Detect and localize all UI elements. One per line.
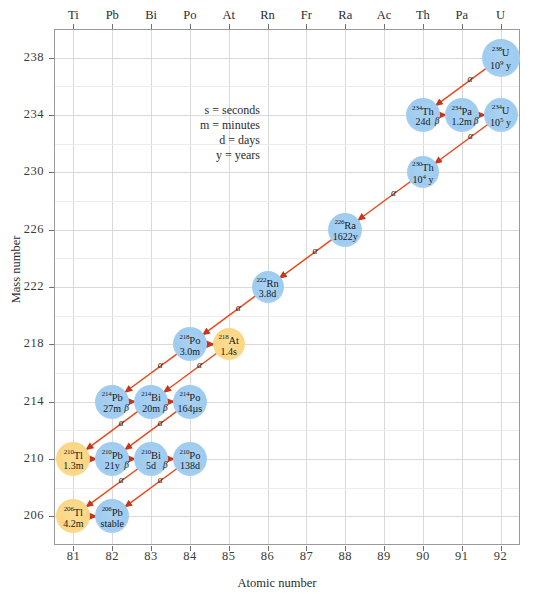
units-legend: s = seconds m = minutes d = days y = yea… [150,103,260,163]
nuclide-half-life: 5d [146,460,156,471]
element-symbol-Fr: Fr [286,8,326,23]
element-symbol-Th: Th [403,8,443,23]
gridline-horizontal-minor [55,430,519,431]
nuclide-node-At218[interactable]: 218At1.4s [213,328,245,360]
decay-label-beta: β [474,116,479,126]
nuclide-symbol: 210Bi [141,447,161,461]
nuclide-symbol: 214Po [179,389,200,403]
nuclide-node-U238[interactable]: 238U109 y [482,39,520,77]
nuclide-node-Pb210[interactable]: 210Pb21y [95,442,129,476]
nuclide-half-life: 104 y [412,172,433,185]
nuclide-symbol: 214Pb [102,389,123,403]
nuclide-half-life: 27m [103,403,121,414]
nuclide-node-Ra226[interactable]: 226Ra1622y [328,213,362,247]
y-axis-title: Mass number [9,170,24,370]
x-tick-mark [423,546,424,551]
top-tick-mark [190,24,191,29]
y-tick-mark [49,115,54,116]
nuclide-node-Th234[interactable]: 234Th24d [406,98,440,132]
nuclide-node-Rn222[interactable]: 222Rn3.8d [252,271,284,303]
decay-label-alpha: α [119,475,124,485]
legend-line-years: y = years [150,148,260,163]
gridline-horizontal [55,172,519,173]
nuclide-node-Th230[interactable]: 230Th104 y [407,156,439,188]
y-tick-label-234: 234 [0,107,44,122]
nuclide-half-life: stable [101,518,124,529]
x-tick-label-92: 92 [481,549,521,564]
x-tick-mark [112,546,113,551]
nuclide-half-life: 4.2m [63,518,83,529]
nuclide-half-life: 1.3m [63,460,83,471]
nuclide-symbol: 210Po [179,447,200,461]
nuclide-node-Pb214[interactable]: 214Pb27m [95,385,129,419]
top-tick-mark [423,24,424,29]
x-tick-label-87: 87 [286,549,326,564]
x-tick-label-84: 84 [170,549,210,564]
gridline-horizontal-minor [55,316,519,317]
nuclide-node-Po218[interactable]: 218Po3.0m [173,327,207,361]
nuclide-node-Bi214[interactable]: 214Bi20m [134,385,168,419]
x-tick-label-89: 89 [364,549,404,564]
x-tick-label-85: 85 [209,549,249,564]
gridline-horizontal [55,287,519,288]
nuclide-half-life: 1622y [333,231,358,242]
x-tick-mark [501,546,502,551]
x-tick-label-83: 83 [131,549,171,564]
gridline-horizontal-minor [55,258,519,259]
nuclide-half-life: 164µs [178,403,203,414]
x-tick-label-88: 88 [325,549,365,564]
nuclide-node-Pa234[interactable]: 234Pa1.2m [445,98,479,132]
nuclide-symbol: 210Tl [64,447,83,461]
gridline-horizontal [55,58,519,59]
element-symbol-Ac: Ac [364,8,404,23]
nuclide-half-life: 105 y [490,115,511,128]
element-symbol-Po: Po [170,8,210,23]
nuclide-node-Bi210[interactable]: 210Bi5d [134,442,168,476]
gridline-horizontal-minor [55,373,519,374]
gridline-horizontal-minor [55,86,519,87]
nuclide-half-life: 3.0m [180,346,200,357]
decay-label-beta: β [124,403,129,413]
y-tick-label-238: 238 [0,50,44,65]
nuclide-node-U234[interactable]: 234U105 y [484,98,518,132]
decay-label-alpha: α [119,418,124,428]
y-tick-mark [49,230,54,231]
y-tick-mark [49,344,54,345]
legend-line-minutes: m = minutes [150,118,260,133]
top-tick-mark [306,24,307,29]
nuclide-symbol: 238U [492,44,510,58]
element-symbol-U: U [481,8,521,23]
nuclide-symbol: 214Bi [141,389,161,403]
nuclide-half-life: 1.2m [452,116,472,127]
element-symbol-Pa: Pa [442,8,482,23]
element-symbol-Rn: Rn [248,8,288,23]
legend-line-seconds: s = seconds [150,103,260,118]
element-symbol-Ra: Ra [325,8,365,23]
element-symbol-Pb: Pb [92,8,132,23]
y-tick-mark [49,58,54,59]
element-symbol-At: At [209,8,249,23]
x-tick-mark [345,546,346,551]
decay-label-beta: β [124,460,129,470]
nuclide-symbol: 222Rn [256,275,278,289]
decay-label-alpha: α [313,246,318,256]
y-tick-mark [49,402,54,403]
y-tick-label-210: 210 [0,451,44,466]
y-tick-label-206: 206 [0,508,44,523]
decay-label-alpha: α [391,188,396,198]
nuclide-symbol: 218At [219,332,239,346]
decay-label-alpha: α [158,475,163,485]
y-tick-mark [49,172,54,173]
nuclide-half-life: 21y [105,460,120,471]
nuclide-node-Po214[interactable]: 214Po164µs [173,385,207,419]
gridline-horizontal-minor [55,488,519,489]
nuclide-symbol: 210Pb [102,447,123,461]
x-axis-title: Atomic number [0,576,554,591]
x-tick-label-91: 91 [442,549,482,564]
x-tick-label-90: 90 [403,549,443,564]
top-tick-mark [462,24,463,29]
nuclide-node-Po210[interactable]: 210Po138d [173,442,207,476]
x-tick-label-86: 86 [248,549,288,564]
nuclide-half-life: 138d [180,460,200,471]
gridline-horizontal-minor [55,201,519,202]
